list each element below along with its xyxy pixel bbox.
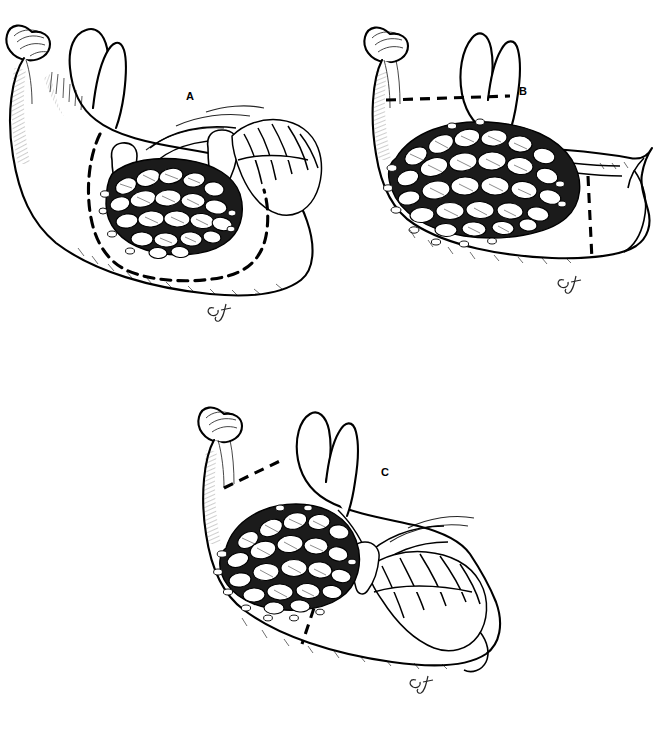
figure-page: A [0, 0, 671, 741]
panel-label-c: C [381, 467, 389, 478]
panel-label-a: A [186, 91, 194, 102]
illustration-panel-b [352, 8, 671, 328]
illustration-panel-c [168, 392, 528, 702]
artist-signature-a [208, 304, 231, 321]
artist-signature-c [410, 676, 433, 693]
panel-label-b: B [519, 86, 527, 97]
figure-caption-block: Figure 23-8 [0, 700, 671, 741]
artist-signature-b [558, 276, 581, 293]
illustration-panel-a [0, 8, 340, 328]
